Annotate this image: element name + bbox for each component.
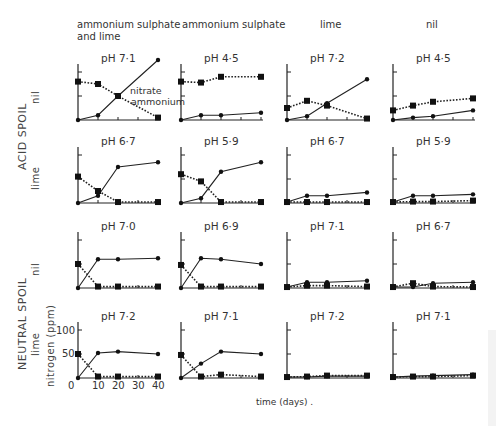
ammonium-marker [95,284,101,290]
ammonium-marker [178,262,184,268]
panel-r2-c1 [178,232,264,290]
nitrate-marker [179,118,183,122]
nitrate-marker [391,118,395,122]
panel-r3-c2 [284,322,370,380]
ammonium-marker [198,178,204,184]
panel-r1-c3 [390,147,476,205]
nitrate-marker [411,194,415,198]
nitrate-marker [179,201,183,205]
nitrate-marker [259,262,263,266]
nitrate-marker [76,118,80,122]
ammonium-marker [155,284,161,290]
nitrate-marker [156,58,160,62]
panel-r3-c0 [75,322,161,380]
nitrate-marker [199,196,203,200]
ammonium-marker [115,284,121,290]
ammonium-marker [430,99,436,105]
ammonium-marker [390,284,396,290]
ammonium-marker [115,93,121,99]
ammonium-marker [95,188,101,194]
nitrate-marker [259,111,263,115]
ammonium-marker [430,374,436,380]
nitrate-marker [219,113,223,117]
page-edge [488,330,496,426]
ammonium-marker [410,280,416,286]
nitrate-marker [76,201,80,205]
panel-r2-c0 [75,232,161,290]
ammonium-marker [178,352,184,358]
ammonium-marker [410,199,416,205]
ammonium-marker [218,284,224,290]
ammonium-marker [218,199,224,205]
ammonium-marker [284,284,290,290]
nitrate-marker [305,114,309,118]
ammonium-marker [304,98,310,104]
nitrate-marker [96,351,100,355]
nitrate-marker [116,349,120,353]
ammonium-marker [324,199,330,205]
nitrate-marker [116,165,120,169]
ammonium-marker [410,103,416,109]
nitrate-marker [431,114,435,118]
ammonium-marker [284,374,290,380]
ammonium-marker [258,74,264,80]
ammonium-marker [155,115,161,121]
ammonium-marker [198,284,204,290]
nitrate-marker [259,160,263,164]
panel-r1-c0 [75,147,161,205]
nitrate-marker [156,352,160,356]
panel-r0-c1 [178,64,264,122]
nitrate-marker [285,118,289,122]
nitrate-marker [365,77,369,81]
panel-r2-c3 [390,232,476,290]
nitrate-marker [411,115,415,119]
nitrate-marker [471,192,475,196]
ammonium-marker [410,374,416,380]
nitrate-marker [76,376,80,380]
panel-r1-c2 [284,147,370,205]
ammonium-marker [364,116,370,122]
panel-r0-c3 [390,64,476,122]
ammonium-marker [364,373,370,379]
ammonium-marker [218,372,224,378]
nitrate-marker [219,349,223,353]
ammonium-marker [364,284,370,290]
ammonium-marker [75,79,81,85]
nitrate-marker [305,194,309,198]
nitrate-marker [76,286,80,290]
nitrate-marker [96,257,100,261]
ammonium-marker [470,198,476,204]
ammonium-marker [178,79,184,85]
ammonium-marker [178,171,184,177]
nitrate-marker [199,113,203,117]
ammonium-marker [304,199,310,205]
ammonium-marker [115,374,121,380]
ammonium-marker [470,284,476,290]
nitrate-marker [199,361,203,365]
ammonium-marker [470,95,476,101]
ammonium-marker [218,74,224,80]
ammonium-marker [304,374,310,380]
ammonium-marker [284,105,290,111]
ammonium-marker [258,199,264,205]
panel-r3-c1 [178,322,264,380]
ammonium-marker [430,199,436,205]
ammonium-marker [430,284,436,290]
panel-r0-c2 [284,64,370,122]
ammonium-marker [95,374,101,380]
nitrate-marker [365,190,369,194]
nitrate-marker [219,170,223,174]
ammonium-marker [364,199,370,205]
panel-r0-c0 [75,58,161,122]
ammonium-marker [324,283,330,289]
nitrate-marker [471,280,475,284]
nitrate-marker [471,108,475,112]
ammonium-marker [390,199,396,205]
nitrate-marker [219,257,223,261]
ammonium-marker [75,261,81,267]
nitrate-marker [179,286,183,290]
nitrate-marker [116,257,120,261]
panel-r1-c1 [178,147,264,205]
ammonium-marker [258,374,264,380]
ammonium-marker [75,351,81,357]
